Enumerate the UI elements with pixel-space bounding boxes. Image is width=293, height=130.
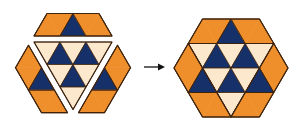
diagram-canvas <box>0 0 293 130</box>
assembled-hexagon <box>174 19 288 117</box>
arrow-head <box>158 64 165 71</box>
exploded-hexagon <box>16 14 131 113</box>
top-piece <box>188 19 274 44</box>
arrow-icon <box>144 64 165 71</box>
top-piece <box>34 14 112 37</box>
